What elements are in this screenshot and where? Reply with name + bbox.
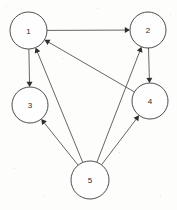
edge-line [47, 41, 134, 92]
edge-1-to-2[interactable] [47, 27, 130, 33]
node-label: 1 [26, 27, 31, 36]
edge-line [101, 118, 137, 165]
graph-node-5[interactable]: 5 [71, 161, 109, 199]
nodes-layer: 12345 [10, 12, 168, 199]
arrow-head-icon [134, 115, 140, 121]
edge-line [149, 48, 150, 80]
graph-diagram: 12345 [0, 0, 177, 210]
graph-node-1[interactable]: 1 [10, 12, 47, 49]
graph-node-4[interactable]: 4 [132, 83, 168, 119]
edge-4-to-1[interactable] [45, 40, 135, 92]
graph-node-2[interactable]: 2 [130, 12, 166, 48]
node-label: 4 [148, 97, 153, 106]
edge-line [29, 49, 30, 84]
arrow-head-icon [146, 78, 152, 83]
node-label: 3 [28, 101, 33, 110]
edge-1-to-3[interactable] [27, 49, 33, 87]
graph-node-3[interactable]: 3 [12, 87, 48, 123]
edge-5-to-3[interactable] [41, 119, 78, 165]
graph-canvas: 12345 [0, 0, 177, 210]
node-label: 5 [88, 176, 93, 185]
arrow-head-icon [27, 82, 33, 87]
edge-2-to-4[interactable] [146, 48, 152, 83]
edge-5-to-4[interactable] [101, 115, 139, 165]
node-label: 2 [146, 26, 151, 35]
arrow-head-icon [41, 119, 47, 125]
arrow-head-icon [125, 27, 130, 33]
edge-line [43, 121, 78, 165]
